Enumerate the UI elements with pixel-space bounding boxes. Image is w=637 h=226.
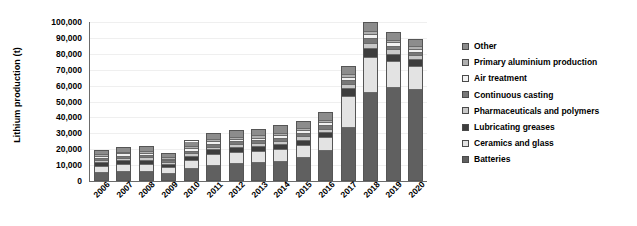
bar-segment[interactable] [387,55,400,63]
legend-item[interactable]: Ceramics and glass [462,135,634,151]
bar-segment[interactable] [297,122,310,129]
legend-item[interactable]: Air treatment [462,70,634,86]
y-axis-title-text: Lithium production (t) [12,47,22,143]
legend-item[interactable]: Batteries [462,151,634,167]
stacked-bar[interactable] [251,129,266,181]
bar-segment[interactable] [274,162,287,180]
bar-group[interactable] [337,22,359,181]
bar-group[interactable] [382,22,404,181]
x-axis-tick-cell: 2010 [179,183,201,226]
bar-group[interactable] [157,22,179,181]
bar-group[interactable] [270,22,292,181]
bar-group[interactable] [202,22,224,181]
bar-group[interactable] [247,22,269,181]
stacked-bar[interactable] [94,150,109,181]
bar-group[interactable] [135,22,157,181]
bar-segment[interactable] [342,128,355,180]
bar-segment[interactable] [252,163,265,180]
stacked-bar[interactable] [139,146,154,181]
bar-group[interactable] [90,22,112,181]
bar-group[interactable] [360,22,382,181]
x-axis-tick-label: 2012 [226,179,246,199]
stacked-bar[interactable] [206,133,221,181]
bar-segment[interactable] [297,146,310,158]
bar-segment[interactable] [409,40,422,48]
bar-segment[interactable] [387,62,400,88]
x-axis-tick-cell: 2007 [111,183,133,226]
bar-segment[interactable] [297,158,310,180]
bar-segment[interactable] [342,97,355,127]
bar-segment[interactable] [230,164,243,180]
bar-segment[interactable] [387,33,400,41]
legend-swatch-icon [462,156,469,163]
bar-segment[interactable] [185,169,198,180]
legend-item[interactable]: Lubricating greases [462,119,634,135]
x-axis-tick-cell: 2013 [246,183,268,226]
legend-item-label: Pharmaceuticals and polymers [474,106,599,116]
x-axis-tick-cell: 2011 [201,183,223,226]
bar-segment[interactable] [252,130,265,137]
x-axis-tick-label: 2011 [204,179,224,199]
y-axis-tick-label: 70,000 [56,65,82,75]
bar-group[interactable] [112,22,134,181]
y-axis-tick-label: 60,000 [56,81,82,91]
bar-group[interactable] [315,22,337,181]
bar-segment[interactable] [364,23,377,32]
bar-segment[interactable] [319,151,332,180]
bar-segment[interactable] [185,161,198,169]
lithium-production-stacked-bar-chart: Lithium production (t) 100,00090,00080,0… [0,0,637,226]
bar-segment[interactable] [230,131,243,138]
stacked-bar[interactable] [116,147,131,181]
bar-segment[interactable] [319,113,332,121]
stacked-bar[interactable] [273,125,288,181]
bar-segment[interactable] [207,166,220,180]
bar-segment[interactable] [387,88,400,180]
bar-segment[interactable] [319,138,332,151]
bar-segment[interactable] [409,60,422,67]
x-axis-tick-cell: 2019 [381,183,403,226]
legend-item[interactable]: Pharmaceuticals and polymers [462,103,634,119]
x-axis-tick-label: 2018 [361,179,381,199]
x-axis-tick-label: 2006 [92,179,112,199]
bar-segment[interactable] [342,67,355,75]
bar-segment[interactable] [409,90,422,180]
bar-segment[interactable] [207,155,220,165]
stacked-bar[interactable] [408,39,423,181]
stacked-bar[interactable] [229,130,244,181]
bar-segment[interactable] [364,93,377,180]
bar-segment[interactable] [342,89,355,97]
legend-item[interactable]: Primary aluminium production [462,54,634,70]
bar-segment[interactable] [117,165,130,172]
stacked-bar[interactable] [318,112,333,181]
x-axis-tick-cell: 2009 [156,183,178,226]
x-axis-tick-cell: 2018 [359,183,381,226]
bar-segment[interactable] [274,150,287,161]
bar-segment[interactable] [409,67,422,90]
bar-group[interactable] [180,22,202,181]
x-axis-tick-label: 2008 [137,179,157,199]
bar-segment[interactable] [252,152,265,163]
legend-item[interactable]: Other [462,38,634,54]
bar-segment[interactable] [364,58,377,93]
bar-segment[interactable] [140,165,153,172]
bar-segment[interactable] [230,153,243,164]
legend-item-label: Batteries [474,154,510,164]
y-axis-tick-label: 90,000 [56,33,82,43]
x-axis-tick-label: 2015 [294,179,314,199]
legend-item-label: Lubricating greases [474,122,555,132]
bar-segment[interactable] [140,172,153,180]
bar-group[interactable] [292,22,314,181]
stacked-bar[interactable] [161,153,176,181]
stacked-bar[interactable] [363,22,378,181]
stacked-bar[interactable] [184,140,199,181]
legend-item-label: Continuous casting [474,90,553,100]
bar-group[interactable] [405,22,427,181]
bar-segment[interactable] [364,49,377,58]
stacked-bar[interactable] [296,121,311,181]
stacked-bar[interactable] [341,66,356,181]
legend-item[interactable]: Continuous casting [462,87,634,103]
bar-group[interactable] [225,22,247,181]
bar-segment[interactable] [95,173,108,180]
stacked-bar[interactable] [386,32,401,181]
bar-segment[interactable] [274,126,287,133]
